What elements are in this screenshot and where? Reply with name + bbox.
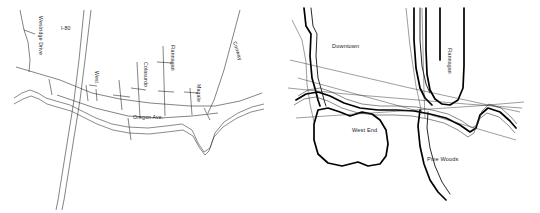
label-i80: I-80 [61,25,71,31]
right-map-panel: Downtown West End Pine Woods Flannagan [270,0,540,213]
river [294,88,517,137]
label-flannagan: Flannagan [447,48,453,74]
left-map-panel: Westridge Drive I-80 West Colasurdo Flan… [0,0,270,213]
label-pine-woods: Pine Woods [427,156,459,162]
label-west-end: West End [352,127,377,133]
label-colasurdo: Colasurdo [143,62,149,87]
label-westridge-drive: Westridge Drive [38,16,44,55]
left-map-drawing: Westridge Drive I-80 West Colasurdo Flan… [0,0,270,213]
road-i80 [56,10,91,210]
label-west: West [94,71,100,84]
right-map-drawing: Downtown West End Pine Woods Flannagan [270,0,540,213]
label-magale: Magale [196,84,202,102]
road-westridge-drive [20,10,35,72]
region-west-end-outline [314,108,388,166]
road-thin-grid [288,8,524,140]
label-flannagan: Flannagan [170,45,176,71]
road-flannagan-corridor [304,8,464,106]
label-downtown: Downtown [332,43,359,49]
road-cross-stubs [49,46,210,140]
label-oregon-ave: Oregon Ave. [133,114,163,120]
road-conway [208,10,240,113]
map-figure: Westridge Drive I-80 West Colasurdo Flan… [0,0,540,213]
label-conway: Conway [232,41,244,62]
